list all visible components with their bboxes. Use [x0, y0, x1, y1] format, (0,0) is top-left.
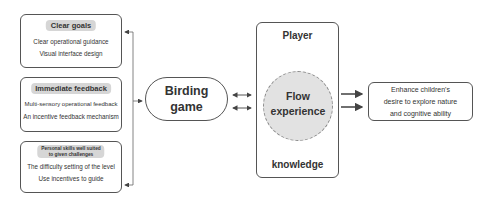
flow-container: Player Flow experience knowledge — [256, 22, 339, 178]
flow-line2: experience — [264, 105, 332, 117]
bracket-connector — [125, 32, 142, 185]
outcome-line: desire to explore nature — [369, 98, 472, 105]
title-line: Personal skills well suited — [41, 146, 100, 152]
outcome-box: Enhance children's desire to explore nat… — [368, 82, 473, 121]
immediate-feedback-title: Immediate feedback — [31, 83, 111, 94]
personal-skills-title: Personal skills well suited to given cha… — [37, 145, 104, 158]
bidirectional-arrows — [233, 95, 251, 108]
flow-experience-circle: Flow experience — [263, 71, 333, 141]
outcome-line: and cognitive ability — [369, 110, 472, 117]
box-line: Clear operational guidance — [21, 38, 121, 45]
birding-game-line1: Birding — [146, 84, 227, 98]
outcome-line: Enhance children's — [369, 86, 472, 93]
box-line: Use incentives to guide — [21, 175, 121, 182]
box-line: The difficulty setting of the level — [21, 163, 121, 170]
title-line: to given challenges — [41, 152, 100, 158]
box-line: An incentive feedback mechanism — [21, 113, 121, 120]
clear-goals-title: Clear goals — [46, 20, 96, 31]
player-label: Player — [257, 30, 338, 41]
box-line: Visual interface design — [21, 50, 121, 57]
knowledge-label: knowledge — [257, 159, 338, 170]
birding-game-node: Birding game — [145, 77, 228, 121]
clear-goals-box: Clear goals Clear operational guidance V… — [20, 14, 122, 68]
immediate-feedback-box: Immediate feedback Multi-sensory operati… — [20, 77, 122, 132]
output-arrows — [341, 94, 362, 107]
personal-skills-box: Personal skills well suited to given cha… — [20, 141, 122, 193]
flow-line1: Flow — [264, 90, 332, 102]
box-line: Multi-sensory operational feedback — [21, 101, 121, 107]
birding-game-line2: game — [146, 100, 227, 114]
